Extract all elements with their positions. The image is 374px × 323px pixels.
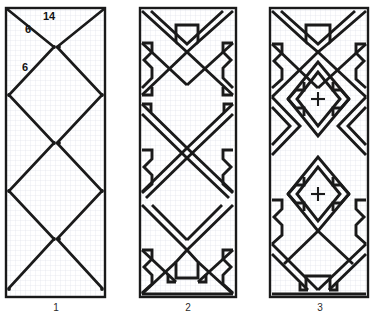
panel-caption-2: 2 [173, 302, 203, 313]
ornament-figure: 14 6 6 1 2 3 [0, 0, 374, 323]
panel-1-grid [6, 8, 105, 297]
panel-caption-1: 1 [41, 302, 71, 313]
panel-caption-3: 3 [305, 302, 335, 313]
dimension-label-6-lower: 6 [22, 61, 28, 73]
dimension-label-14: 14 [43, 10, 55, 22]
dimension-label-6-upper: 6 [25, 23, 31, 35]
panel-3-group [270, 8, 368, 297]
ornament-artwork [0, 0, 374, 323]
panel-2-group [140, 8, 236, 297]
panel-1-group [6, 8, 105, 297]
